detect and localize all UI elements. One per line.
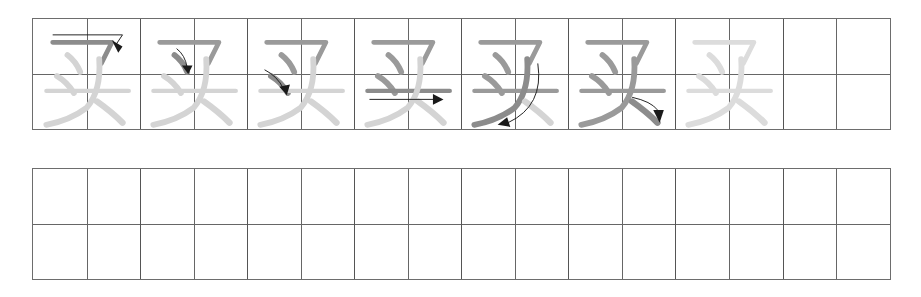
stroke-cell-stroke-4 bbox=[354, 19, 461, 129]
character-glyph bbox=[260, 42, 343, 125]
practice-cell[interactable] bbox=[354, 169, 408, 279]
stroke-1 bbox=[588, 42, 647, 63]
stroke-6 bbox=[97, 102, 122, 123]
character-glyph bbox=[475, 42, 558, 125]
practice-cell[interactable] bbox=[194, 169, 248, 279]
stroke-2 bbox=[389, 55, 402, 72]
practice-row bbox=[32, 168, 891, 280]
stroke-cell-stroke-1 bbox=[33, 19, 140, 129]
character-glyph bbox=[46, 42, 129, 125]
practice-cell[interactable] bbox=[140, 169, 194, 279]
stroke-1 bbox=[160, 42, 219, 63]
stroke-1 bbox=[481, 42, 540, 63]
character-glyph bbox=[689, 42, 772, 125]
stroke-1 bbox=[53, 42, 112, 63]
stroke-cell-stroke-6 bbox=[568, 19, 675, 129]
practice-cell[interactable] bbox=[783, 169, 837, 279]
stroke-2 bbox=[282, 55, 295, 72]
practice-cell[interactable] bbox=[461, 169, 515, 279]
stroke-1 bbox=[374, 42, 433, 63]
stroke-order-row bbox=[32, 18, 891, 130]
stroke-6 bbox=[740, 102, 765, 123]
character-glyph bbox=[153, 42, 236, 125]
practice-cell[interactable] bbox=[408, 169, 462, 279]
practice-cell[interactable] bbox=[515, 169, 569, 279]
practice-cell[interactable] bbox=[33, 169, 87, 279]
stroke-6 bbox=[418, 102, 443, 123]
character-glyph bbox=[582, 42, 665, 125]
stroke-2 bbox=[67, 55, 80, 72]
stroke-2 bbox=[603, 55, 616, 72]
practice-cell[interactable] bbox=[301, 169, 355, 279]
practice-cell[interactable] bbox=[729, 169, 783, 279]
stroke-cell-stroke-5 bbox=[461, 19, 568, 129]
stroke-1 bbox=[695, 42, 754, 63]
practice-cell[interactable] bbox=[568, 169, 622, 279]
practice-cell[interactable] bbox=[247, 169, 301, 279]
character-glyph bbox=[368, 42, 451, 125]
stroke-6 bbox=[204, 102, 229, 123]
stroke-order-worksheet bbox=[0, 0, 921, 297]
stroke-6 bbox=[311, 102, 336, 123]
stroke-1 bbox=[267, 42, 326, 63]
stroke-2 bbox=[710, 55, 723, 72]
practice-cell[interactable] bbox=[836, 169, 890, 279]
practice-cell[interactable] bbox=[675, 169, 729, 279]
stroke-cell-stroke-3 bbox=[247, 19, 354, 129]
stroke-cell-empty bbox=[783, 19, 890, 129]
practice-cell[interactable] bbox=[622, 169, 676, 279]
stroke-6 bbox=[632, 102, 657, 123]
stroke-6 bbox=[525, 102, 550, 123]
practice-cell[interactable] bbox=[87, 169, 141, 279]
stroke-2 bbox=[496, 55, 509, 72]
stroke-direction-arrow-icon bbox=[370, 94, 444, 105]
stroke-cell-trace-full bbox=[675, 19, 782, 129]
stroke-cell-stroke-2 bbox=[140, 19, 247, 129]
